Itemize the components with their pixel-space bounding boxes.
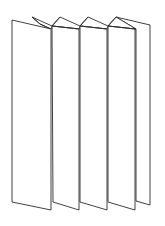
panel-3 bbox=[80, 26, 107, 210]
panel-1-front bbox=[12, 20, 51, 210]
panel-2 bbox=[52, 26, 79, 210]
folded-leaflet-drawing bbox=[0, 0, 165, 226]
panel-4 bbox=[108, 26, 135, 210]
accordion-fold-illustration: Accordion-folded leaflet bbox=[0, 0, 165, 226]
